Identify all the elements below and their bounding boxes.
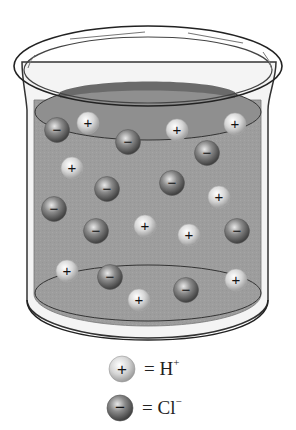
minus-sign-icon: −	[50, 200, 59, 217]
hydrogen-ion: +	[128, 289, 150, 311]
chloride-ion: −	[174, 278, 199, 303]
chloride-ion: −	[160, 171, 185, 196]
plus-sign-icon: +	[231, 115, 240, 132]
svg-text:−: −	[115, 398, 125, 417]
chloride-ion: −	[42, 197, 67, 222]
hydrogen-ion: +	[61, 157, 83, 179]
minus-sign-icon: −	[168, 174, 177, 191]
hydrogen-ion: +	[134, 215, 156, 237]
hydrogen-ion: +	[178, 224, 200, 246]
plus-sign-icon: +	[185, 226, 194, 243]
chloride-ion: −	[225, 219, 250, 244]
minus-sign-icon: −	[103, 180, 112, 197]
minus-sign-icon: −	[106, 268, 115, 285]
minus-sign-icon: −	[124, 133, 133, 150]
legend-label-hydrogen: = H+	[144, 358, 179, 380]
chloride-ion-icon: −	[106, 394, 134, 422]
legend-label-chloride: = Cl−	[142, 397, 182, 419]
chloride-ion: −	[195, 141, 220, 166]
plus-sign-icon: +	[84, 114, 93, 131]
plus-sign-icon: +	[141, 217, 150, 234]
plus-sign-icon: +	[63, 262, 72, 279]
plus-sign-icon: +	[68, 159, 77, 176]
hydrogen-ion: +	[56, 260, 78, 282]
minus-sign-icon: −	[53, 121, 62, 138]
hydrogen-ion: +	[225, 269, 247, 291]
plus-sign-icon: +	[215, 188, 224, 205]
hydrogen-ion: +	[208, 186, 230, 208]
minus-sign-icon: −	[92, 222, 101, 239]
hydrogen-ion-icon: +	[108, 355, 136, 383]
chloride-ion: −	[84, 219, 109, 244]
minus-sign-icon: −	[203, 144, 212, 161]
plus-sign-icon: +	[135, 291, 144, 308]
chloride-ion: −	[116, 130, 141, 155]
chloride-ion: −	[45, 118, 70, 143]
minus-sign-icon: −	[233, 222, 242, 239]
hydrogen-ion: +	[224, 113, 246, 135]
chloride-ion: −	[98, 265, 123, 290]
chloride-ion: −	[95, 177, 120, 202]
svg-text:+: +	[117, 360, 127, 379]
hydrogen-ion: +	[166, 119, 188, 141]
plus-sign-icon: +	[173, 121, 182, 138]
legend-item-chloride: − = Cl−	[106, 394, 182, 422]
legend-item-hydrogen: + = H+	[108, 355, 179, 383]
hydrogen-ion: +	[77, 112, 99, 134]
plus-sign-icon: +	[232, 271, 241, 288]
minus-sign-icon: −	[182, 281, 191, 298]
